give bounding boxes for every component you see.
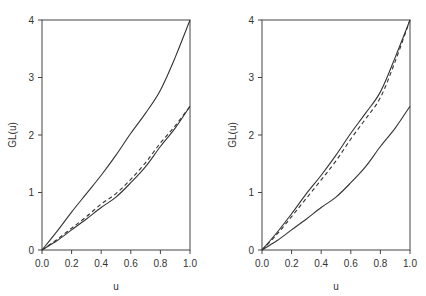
x-tick-label: 0.8 [153, 258, 167, 269]
y-axis-label: GL(u) [7, 122, 18, 148]
y-axis-label: GL(u) [227, 122, 238, 148]
y-tick-label: 0 [28, 245, 34, 256]
x-tick-label: 1.0 [403, 258, 417, 269]
x-tick-label: 1.0 [183, 258, 197, 269]
y-tick-label: 2 [28, 130, 34, 141]
plot-panel-left: 0.00.20.40.60.81.001234uGL(u) [7, 15, 197, 293]
x-tick-label: 0.4 [314, 258, 328, 269]
x-tick-label: 0.6 [124, 258, 138, 269]
y-tick-label: 3 [248, 72, 254, 83]
y-tick-label: 0 [248, 245, 254, 256]
series-line-upper-solid [262, 20, 410, 250]
x-tick-label: 0.6 [344, 258, 358, 269]
series-line-lower-solid [262, 106, 410, 250]
x-axis-label: u [333, 281, 339, 292]
series-line-dashed [42, 106, 190, 250]
series-line-lower-solid [42, 106, 190, 250]
y-tick-label: 1 [248, 187, 254, 198]
x-tick-label: 0.2 [285, 258, 299, 269]
x-tick-label: 0.0 [255, 258, 269, 269]
plot-panel-right: 0.00.20.40.60.81.001234uGL(u) [227, 15, 417, 293]
y-tick-label: 1 [28, 187, 34, 198]
y-tick-label: 4 [248, 15, 254, 26]
y-tick-label: 2 [248, 130, 254, 141]
x-tick-label: 0.8 [373, 258, 387, 269]
y-tick-label: 3 [28, 72, 34, 83]
chart-canvas: 0.00.20.40.60.81.001234uGL(u)0.00.20.40.… [0, 0, 426, 296]
series-line-dashed [262, 20, 410, 250]
x-tick-label: 0.0 [35, 258, 49, 269]
x-tick-label: 0.2 [65, 258, 79, 269]
x-axis-label: u [113, 281, 119, 292]
y-tick-label: 4 [28, 15, 34, 26]
x-tick-label: 0.4 [94, 258, 108, 269]
plot-frame [262, 20, 410, 250]
